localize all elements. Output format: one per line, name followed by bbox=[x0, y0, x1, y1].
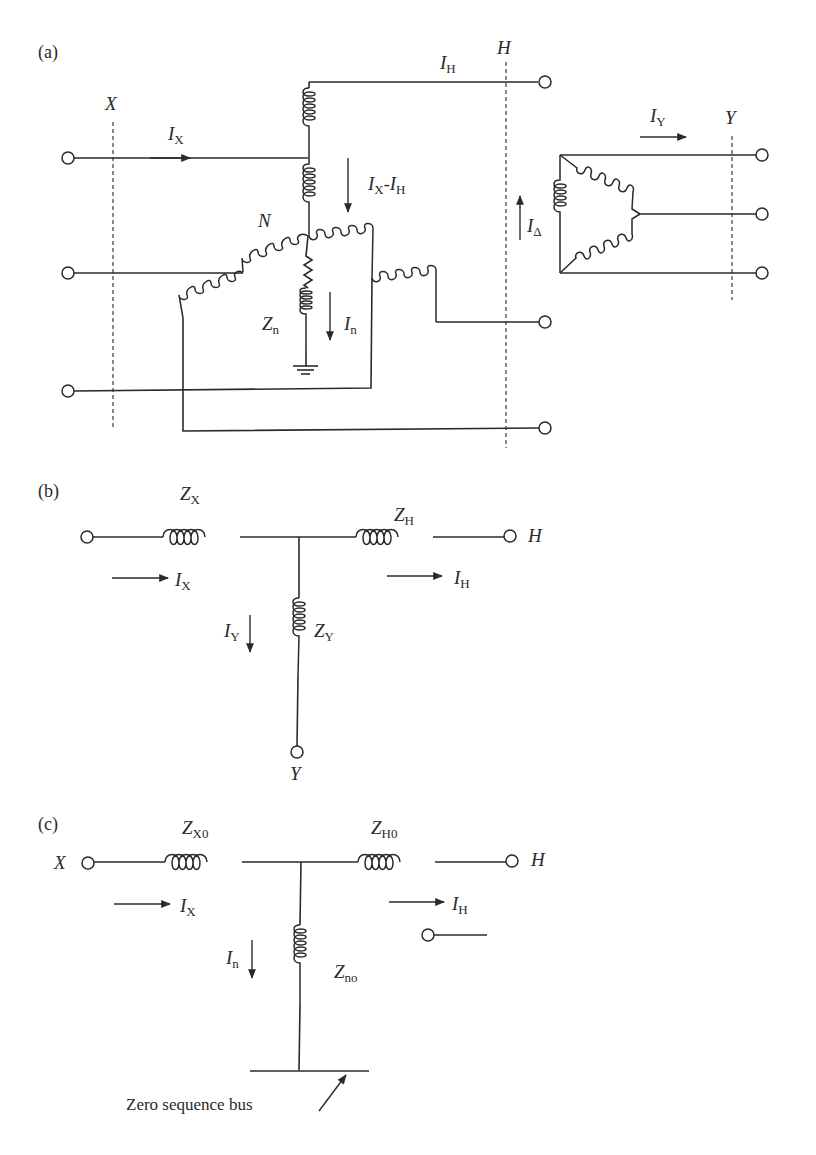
terminal-x-phase-3 bbox=[62, 385, 74, 397]
label-zno: Zno bbox=[334, 961, 358, 985]
bus-y-label: Y bbox=[725, 107, 738, 128]
terminal-h bbox=[506, 855, 518, 867]
panel-a: (a) X H Y IX IX-IH N bbox=[38, 37, 768, 448]
delta-tertiary-winding bbox=[554, 155, 756, 273]
terminal-h-phase-1 bbox=[539, 76, 551, 88]
terminal-x bbox=[82, 857, 94, 869]
terminal-h-phase-2 bbox=[539, 316, 551, 328]
label-ih: IH bbox=[439, 52, 456, 76]
panel-b-label: (b) bbox=[38, 481, 59, 502]
bus-x-label: X bbox=[104, 93, 118, 114]
neutral-reactor-icon bbox=[300, 288, 312, 350]
coil-common-winding-1 bbox=[303, 158, 315, 236]
bus-h-label: H bbox=[496, 37, 512, 58]
label-zh: ZH bbox=[394, 504, 414, 528]
bus-pointer-arrow bbox=[319, 1075, 346, 1111]
terminal-y-label: Y bbox=[290, 763, 303, 784]
neutral-resistor-icon bbox=[304, 236, 312, 288]
terminal-h bbox=[504, 530, 516, 542]
terminal-y-phase-2 bbox=[756, 208, 768, 220]
label-iy: IY bbox=[649, 105, 666, 129]
coil-zx0 bbox=[165, 855, 207, 870]
coil-zno bbox=[294, 925, 306, 1005]
transformer-diagram: (a) X H Y IX IX-IH N bbox=[0, 0, 816, 1155]
label-ih: IH bbox=[451, 893, 468, 917]
wire-h-phase-3 bbox=[183, 318, 539, 431]
terminal-y-phase-1 bbox=[756, 149, 768, 161]
label-ix: IX bbox=[167, 123, 184, 147]
terminal-h-phase-3 bbox=[539, 422, 551, 434]
label-ix-minus-ih: IX-IH bbox=[367, 173, 405, 197]
ground-icon bbox=[293, 350, 318, 374]
label-in: In bbox=[343, 313, 357, 337]
coil-common-winding-3 bbox=[309, 224, 373, 279]
label-zx: ZX bbox=[180, 483, 201, 507]
terminal-x-label: X bbox=[53, 852, 67, 873]
panel-c-label: (c) bbox=[38, 814, 58, 835]
label-iy: IY bbox=[223, 620, 240, 644]
coil-series-winding-2 bbox=[179, 271, 243, 318]
coil-series-winding-1 bbox=[303, 88, 315, 158]
panel-b: (b) H ZX ZH IX IH Y ZY IY bbox=[38, 481, 543, 784]
wire-x-phase-3 bbox=[74, 278, 372, 391]
zero-sequence-bus-caption: Zero sequence bus bbox=[126, 1095, 253, 1114]
coil-common-winding-2 bbox=[242, 234, 308, 272]
coil-zy bbox=[293, 598, 305, 676]
panel-c: (c) X H ZX0 ZH0 IX IH Zno In Zero sequen… bbox=[38, 814, 546, 1114]
open-terminal-stub bbox=[422, 929, 434, 941]
terminal-x-phase-1 bbox=[62, 152, 74, 164]
wire-shunt-bottom bbox=[299, 1005, 300, 1070]
label-ix: IX bbox=[174, 569, 191, 593]
coil-zx bbox=[163, 530, 205, 545]
coil-zh bbox=[356, 530, 398, 545]
wire-shunt-bottom bbox=[297, 676, 298, 746]
coil-series-winding-3 bbox=[372, 266, 436, 323]
panel-a-label: (a) bbox=[38, 42, 58, 63]
terminal-h-label: H bbox=[530, 849, 546, 870]
coil-zh0 bbox=[358, 855, 400, 870]
terminal-y bbox=[291, 746, 303, 758]
label-zh0: ZH0 bbox=[371, 817, 397, 841]
terminal-h-label: H bbox=[527, 525, 543, 546]
label-zx0: ZX0 bbox=[182, 817, 208, 841]
terminal-x-phase-2 bbox=[62, 267, 74, 279]
label-in: In bbox=[225, 947, 239, 971]
neutral-label: N bbox=[257, 210, 272, 231]
wire-shunt-top bbox=[300, 862, 301, 925]
wire-h-phase-1 bbox=[309, 82, 538, 88]
label-ih: IH bbox=[453, 567, 470, 591]
terminal-x bbox=[81, 531, 93, 543]
label-zn: Zn bbox=[262, 313, 280, 337]
label-zy: ZY bbox=[314, 620, 335, 644]
label-idelta: IΔ bbox=[526, 215, 542, 239]
label-ix: IX bbox=[179, 895, 196, 919]
terminal-y-phase-3 bbox=[756, 267, 768, 279]
